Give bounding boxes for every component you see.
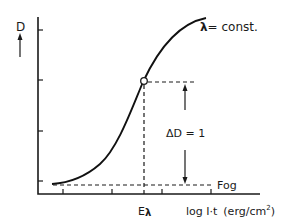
marker-label: Eλ <box>138 205 152 218</box>
x-axis-label: log I·t(erg/cm2) <box>186 204 275 218</box>
axes <box>38 17 260 194</box>
delta-up-arrow-icon <box>183 84 188 110</box>
characteristic-curve-diagram: D Fog λ= const. ΔD = 1 Eλ log <box>0 0 304 221</box>
characteristic-curve <box>52 18 206 184</box>
fog-label: Fog <box>217 179 237 192</box>
delta-d-label: ΔD = 1 <box>166 127 205 140</box>
reference-point-marker <box>141 78 148 85</box>
curve-label-text: = const. <box>208 20 258 34</box>
y-axis-label: D <box>16 20 25 34</box>
y-direction-arrow-icon <box>18 33 23 57</box>
curve-label: λ= const. <box>200 20 258 34</box>
delta-down-arrow-icon <box>183 150 188 184</box>
